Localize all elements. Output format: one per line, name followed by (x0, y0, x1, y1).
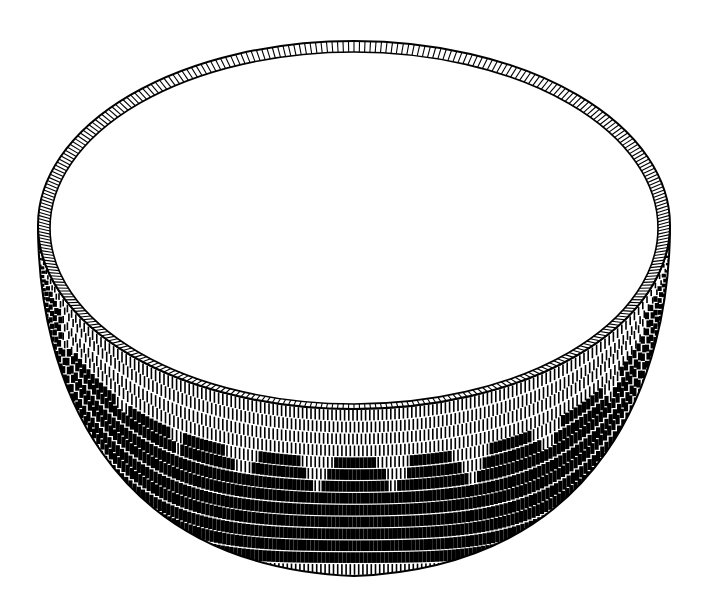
basket-illustration (0, 0, 708, 608)
basket-rim (38, 41, 670, 409)
basket-drawing (0, 0, 708, 608)
